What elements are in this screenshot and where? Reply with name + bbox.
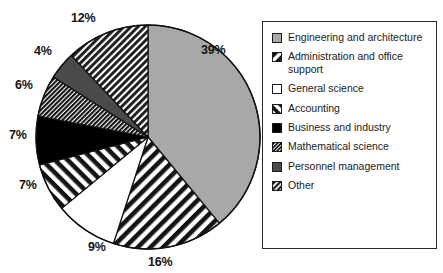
pie-slices — [36, 25, 260, 249]
pie-slice-percentage-label: 7% — [19, 178, 37, 192]
pie-slice-percentage-label: 39% — [201, 43, 225, 57]
pie-svg — [0, 0, 262, 273]
legend-item-label: Administration and office support — [288, 50, 430, 75]
pie-slice-percentage-label: 12% — [71, 11, 95, 25]
legend-item-label: Mathematical science — [288, 140, 389, 152]
legend-item[interactable]: Accounting — [272, 102, 430, 114]
legend-swatch-icon — [272, 84, 282, 94]
pie-chart-figure: 39%16%9%7%7%6%4%12% Engineering and arch… — [0, 0, 443, 273]
legend-item-label: Personnel management — [288, 160, 400, 172]
legend-item[interactable]: Personnel management — [272, 160, 430, 172]
legend-swatch-icon — [272, 104, 282, 114]
legend-item-label: Other — [288, 179, 314, 191]
legend-item[interactable]: Administration and office support — [272, 50, 430, 75]
legend-item[interactable]: Mathematical science — [272, 140, 430, 152]
legend-swatch-icon — [272, 142, 282, 152]
pie-slice-percentage-label: 6% — [15, 78, 33, 92]
legend-swatch-icon — [272, 52, 282, 62]
legend-swatch-icon — [272, 162, 282, 172]
pie-slice-percentage-label: 9% — [88, 240, 106, 254]
chart-legend: Engineering and architectureAdministrati… — [262, 21, 437, 249]
legend-item-label: Business and industry — [288, 121, 391, 133]
pie-slice-percentage-label: 16% — [148, 255, 172, 269]
legend-item-label: Engineering and architecture — [288, 31, 422, 43]
legend-item-label: Accounting — [288, 102, 340, 114]
pie-chart-plot-area: 39%16%9%7%7%6%4%12% — [0, 0, 262, 273]
legend-item[interactable]: Other — [272, 179, 430, 191]
legend-swatch-icon — [272, 123, 282, 133]
legend-item[interactable]: Engineering and architecture — [272, 31, 430, 43]
legend-swatch-icon — [272, 181, 282, 191]
legend-item-label: General science — [288, 82, 364, 94]
legend-swatch-icon — [272, 33, 282, 43]
pie-slice-percentage-label: 7% — [9, 128, 27, 142]
legend-item[interactable]: General science — [272, 82, 430, 94]
legend-item[interactable]: Business and industry — [272, 121, 430, 133]
pie-slice-percentage-label: 4% — [34, 44, 52, 58]
